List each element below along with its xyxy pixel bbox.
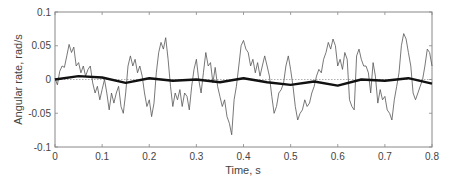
x-axis-label: Time, s — [225, 164, 261, 176]
y-tick-label: -0.05 — [28, 108, 51, 119]
y-tick-label: 0.05 — [32, 40, 52, 51]
x-tick-label: 0.8 — [425, 151, 439, 162]
x-tick-label: 0.3 — [189, 151, 203, 162]
x-tick-label: 0 — [52, 151, 58, 162]
x-tick-label: 0.5 — [284, 151, 298, 162]
y-tick-label: 0 — [45, 74, 51, 85]
x-tick-label: 0.4 — [237, 151, 251, 162]
chart: 00.10.20.30.40.50.60.70.8 -0.1-0.0500.05… — [0, 0, 455, 182]
x-tick-label: 0.1 — [95, 151, 109, 162]
x-tick-label: 0.2 — [142, 151, 156, 162]
y-tick-label: 0.1 — [37, 7, 51, 18]
x-tick-label: 0.7 — [378, 151, 392, 162]
y-axis-label: Angular rate, rad/s — [12, 34, 24, 125]
y-tick-label: -0.1 — [34, 142, 52, 153]
x-tick-label: 0.6 — [331, 151, 345, 162]
